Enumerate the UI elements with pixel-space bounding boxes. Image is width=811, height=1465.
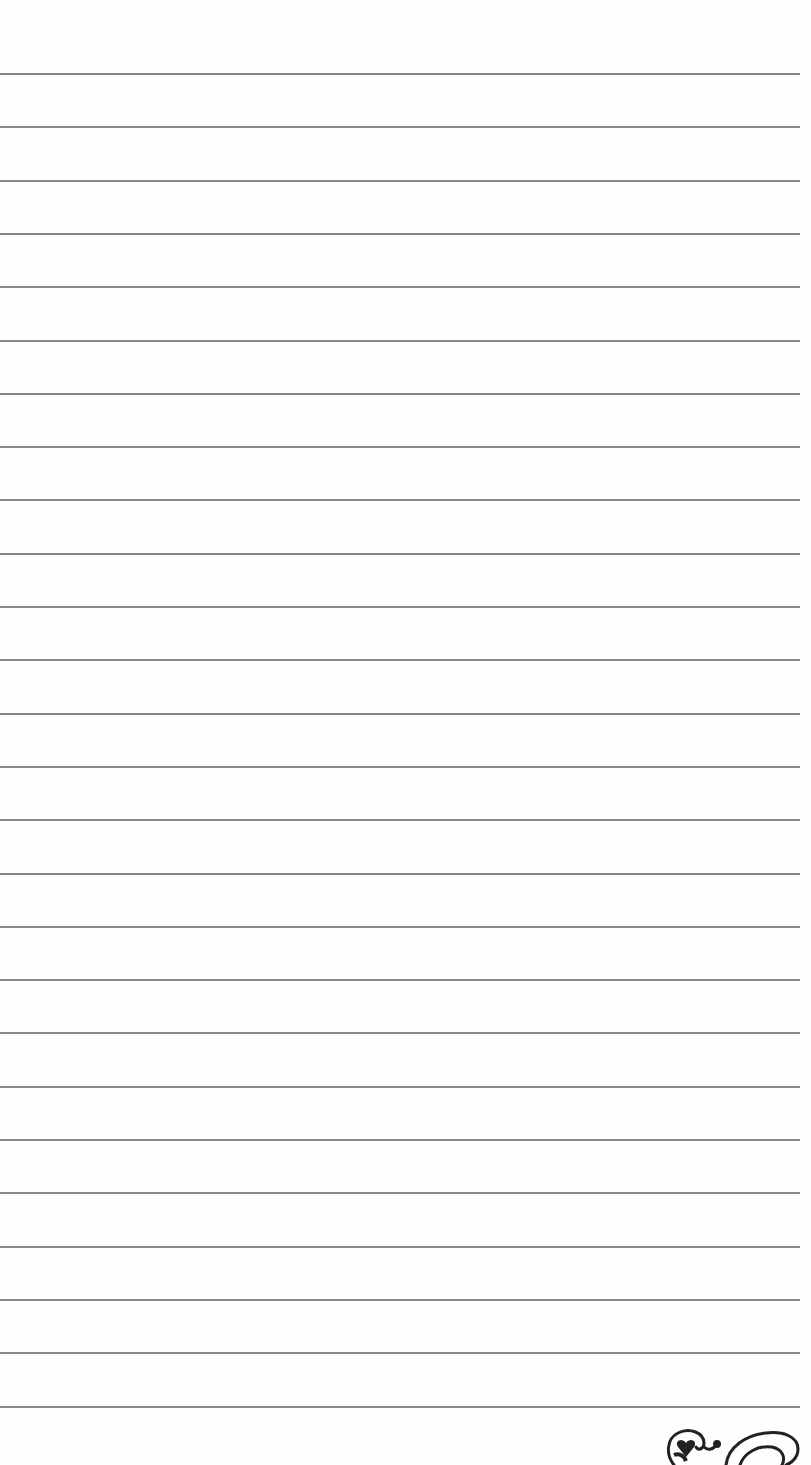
ruled-line	[0, 1406, 800, 1408]
ruled-line	[0, 126, 800, 128]
ruled-line	[0, 1192, 800, 1194]
ruled-line	[0, 1246, 800, 1248]
ruled-line	[0, 499, 800, 501]
ruled-line	[0, 233, 800, 235]
ruled-line	[0, 553, 800, 555]
ruled-line	[0, 393, 800, 395]
ruled-line	[0, 819, 800, 821]
ruled-line	[0, 340, 800, 342]
ruled-line	[0, 1352, 800, 1354]
ruled-line	[0, 1139, 800, 1141]
ruled-line	[0, 873, 800, 875]
ruled-line	[0, 926, 800, 928]
ruled-line	[0, 180, 800, 182]
ruled-line	[0, 1299, 800, 1301]
ruled-line	[0, 73, 800, 75]
ruled-line	[0, 713, 800, 715]
ruled-line	[0, 1086, 800, 1088]
ruled-line	[0, 659, 800, 661]
ruled-line	[0, 606, 800, 608]
ruled-line	[0, 979, 800, 981]
ruled-line	[0, 446, 800, 448]
heart-swirl-flourish-icon	[660, 1425, 805, 1465]
ruled-line	[0, 1032, 800, 1034]
ruled-line	[0, 766, 800, 768]
ruled-line	[0, 286, 800, 288]
